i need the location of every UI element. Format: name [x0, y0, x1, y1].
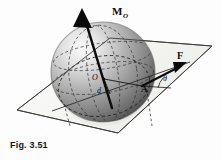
- moment-vector-label: MO: [112, 6, 128, 20]
- moment-vector-symbol: M: [112, 5, 122, 17]
- figure-container: MO F O d A θ Fig. 3.51: [0, 0, 222, 160]
- center-point-label: O: [92, 74, 98, 82]
- arrow-up-icon: [73, 8, 92, 28]
- force-vector-label: F: [177, 51, 183, 61]
- application-point-label: A: [141, 85, 148, 94]
- moment-arm-label: d: [97, 87, 101, 95]
- mechanics-diagram: [0, 0, 222, 160]
- moment-vector-subscript: O: [123, 12, 128, 20]
- figure-caption: Fig. 3.51: [10, 140, 48, 150]
- angle-label: θ: [163, 75, 167, 83]
